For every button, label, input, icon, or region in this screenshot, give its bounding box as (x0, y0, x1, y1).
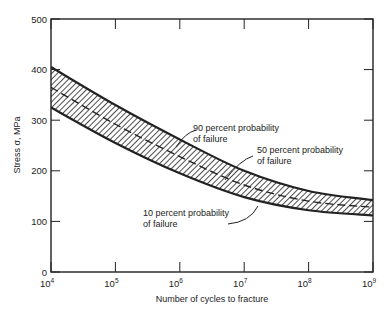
svg-text:of failure: of failure (193, 134, 228, 144)
leader-arrow-10 (228, 206, 258, 224)
x-tick-label: 104 (40, 277, 55, 289)
y-tick-label: 300 (31, 115, 47, 126)
x-tick-label: 109 (362, 277, 377, 289)
x-tick-label: 106 (169, 277, 184, 289)
svg-text:10 percent probability: 10 percent probability (143, 208, 230, 218)
svg-text:90 percent probability: 90 percent probability (193, 123, 280, 133)
annotation-10-percent: 10 percent probability of failure (143, 206, 258, 229)
svg-text:of failure: of failure (257, 156, 292, 166)
y-tick-label: 200 (31, 165, 47, 176)
x-tick-label: 108 (297, 277, 312, 289)
y-tick-label: 0 (42, 267, 47, 278)
y-tick-label: 400 (31, 64, 47, 75)
x-axis-label: Number of cycles to fracture (156, 294, 269, 304)
svg-text:of failure: of failure (143, 219, 178, 229)
x-tick-label: 107 (233, 277, 248, 289)
y-axis-label: Stress σ, MPa (12, 116, 22, 173)
x-tick-label: 105 (104, 277, 119, 289)
y-tick-label: 100 (31, 216, 47, 227)
y-tick-label: 500 (31, 14, 47, 25)
annotation-90-percent: 90 percent probability of failure (176, 123, 280, 147)
svg-text:50 percent probability: 50 percent probability (257, 145, 344, 155)
sn-curve-chart: 0100200300400500 104105106107108109 Stre… (0, 0, 392, 314)
